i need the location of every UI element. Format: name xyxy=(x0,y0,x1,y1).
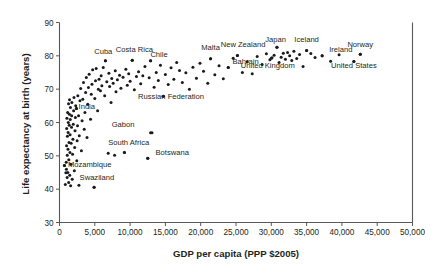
data-point xyxy=(78,134,81,137)
data-point xyxy=(91,68,94,71)
data-point xyxy=(76,124,79,127)
data-point xyxy=(100,74,103,77)
data-point xyxy=(73,169,76,172)
data-point xyxy=(65,127,68,130)
data-point xyxy=(105,80,108,83)
data-point xyxy=(67,121,70,124)
data-point xyxy=(67,102,70,105)
x-tick-label: 30,000 xyxy=(259,228,284,237)
point-label: United Kingdom xyxy=(241,61,295,70)
data-point xyxy=(87,86,90,89)
data-point xyxy=(72,96,75,99)
point-label: Botswana xyxy=(156,148,190,157)
point-label: Malta xyxy=(201,43,220,52)
data-point xyxy=(66,148,69,151)
data-point xyxy=(227,66,230,69)
chart-canvas: 05,00010,00015,00020,00025,00030,00035,0… xyxy=(0,0,435,273)
data-point xyxy=(241,71,244,74)
data-point xyxy=(90,93,93,96)
data-point xyxy=(69,106,72,109)
data-point xyxy=(86,136,89,139)
data-point xyxy=(280,56,283,59)
data-point xyxy=(222,77,225,80)
data-point xyxy=(107,72,110,75)
data-point xyxy=(102,66,105,69)
data-point xyxy=(155,71,158,74)
data-point xyxy=(149,131,152,134)
data-point xyxy=(265,52,268,55)
data-point xyxy=(69,133,72,136)
data-point xyxy=(81,119,84,122)
point-label: Mozambique xyxy=(68,160,111,169)
data-point xyxy=(107,152,110,155)
data-point xyxy=(65,117,68,120)
data-point xyxy=(198,62,201,65)
data-point xyxy=(126,84,129,87)
data-point xyxy=(90,83,93,86)
point-label: Costa Rica xyxy=(116,45,154,54)
x-tick-label: 20,000 xyxy=(188,228,213,237)
data-point xyxy=(129,80,132,83)
point-labels-layer: CubaCosta RicaChileMaltaNew ZealandJapan… xyxy=(68,35,377,183)
data-point xyxy=(76,139,79,142)
data-point xyxy=(135,75,138,78)
x-tick-label: 15,000 xyxy=(153,228,178,237)
data-point xyxy=(70,101,73,104)
data-point xyxy=(184,71,187,74)
data-point xyxy=(69,184,72,187)
data-point xyxy=(72,109,75,112)
data-point xyxy=(82,81,85,84)
data-point xyxy=(195,77,198,80)
data-point xyxy=(96,109,99,112)
data-point xyxy=(81,98,84,101)
point-label: Chile xyxy=(150,50,167,59)
data-point xyxy=(202,70,205,73)
data-point xyxy=(74,116,77,119)
y-tick-label: 70 xyxy=(44,85,54,94)
data-point xyxy=(67,131,70,134)
x-tick-label: 25,000 xyxy=(223,228,248,237)
x-tick-label: 35,000 xyxy=(294,228,319,237)
y-tick-label: 80 xyxy=(44,52,54,61)
point-label: Russian Federation xyxy=(138,92,204,101)
data-point xyxy=(93,186,96,189)
data-point xyxy=(71,178,74,181)
data-point xyxy=(149,59,152,62)
data-point xyxy=(164,73,167,76)
data-point xyxy=(143,65,146,68)
point-label: South Africa xyxy=(108,138,150,147)
x-tick-label: 50,000 xyxy=(400,228,425,237)
data-point xyxy=(88,73,91,76)
data-point xyxy=(99,89,102,92)
data-point xyxy=(148,76,151,79)
x-tick-label: 45,000 xyxy=(365,228,390,237)
y-tick-label: 50 xyxy=(44,152,54,161)
data-point xyxy=(70,142,73,145)
data-point xyxy=(68,124,71,127)
data-point xyxy=(270,57,273,60)
point-label: Gabon xyxy=(112,120,135,129)
data-point xyxy=(275,46,278,49)
data-point xyxy=(110,77,113,80)
data-point xyxy=(157,79,160,82)
x-tick-label: 40,000 xyxy=(329,228,354,237)
data-point xyxy=(188,88,191,91)
x-axis-title: GDP per capita (PPP $2005) xyxy=(173,248,299,259)
data-point xyxy=(146,157,149,160)
data-point xyxy=(71,153,74,156)
data-point xyxy=(131,59,134,62)
point-label: Cuba xyxy=(94,47,113,56)
data-point xyxy=(118,74,121,77)
data-point xyxy=(288,54,291,57)
data-point xyxy=(68,98,71,101)
data-point xyxy=(70,126,73,129)
data-point xyxy=(159,64,162,67)
data-point xyxy=(113,154,116,157)
y-axis-title: Life expectancy at birth (years) xyxy=(20,53,31,194)
data-point xyxy=(338,53,341,56)
data-point xyxy=(83,128,86,131)
data-point xyxy=(175,61,178,64)
data-point xyxy=(85,76,88,79)
data-point xyxy=(167,83,170,86)
data-point xyxy=(122,76,125,79)
